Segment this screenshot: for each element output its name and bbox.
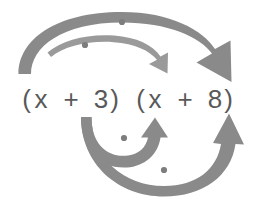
dot-bottom-outer bbox=[161, 167, 167, 173]
arrow-inner-top bbox=[48, 35, 169, 73]
arrow-inner-top-body bbox=[48, 35, 169, 73]
dot-top-outer bbox=[119, 19, 125, 25]
dot-bottom-inner bbox=[121, 135, 127, 141]
arrow-graphics bbox=[0, 0, 254, 199]
dot-top-inner bbox=[82, 42, 88, 48]
foil-diagram: ( x + 3 ) ( x + 8 ) bbox=[0, 0, 254, 199]
